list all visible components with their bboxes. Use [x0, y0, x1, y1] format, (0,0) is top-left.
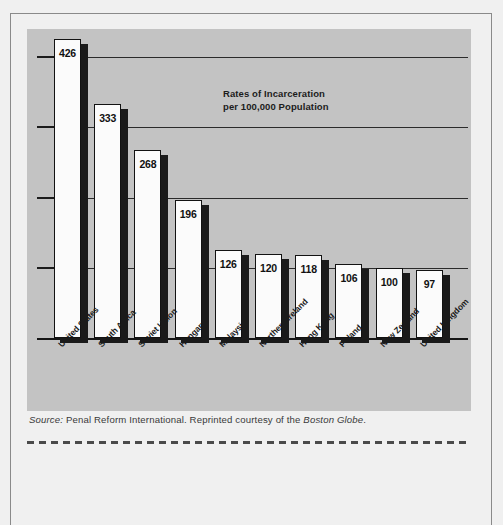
figure-container: 42633326819612612011810610097 Rates of I…: [0, 0, 503, 525]
dashed-rule: [27, 441, 471, 444]
source-period: .: [363, 414, 366, 425]
bar-value-label: 333: [94, 112, 121, 124]
bar-soviet-union: 268: [134, 150, 169, 338]
bar-hungary: 196: [175, 200, 210, 338]
chart-title: Rates of Incarceration per 100,000 Popul…: [223, 87, 329, 113]
bar-value-label: 120: [255, 262, 282, 274]
frame-left-rule: [10, 13, 11, 525]
bar-united-states: 426: [54, 39, 89, 338]
bar-body: [134, 150, 161, 338]
source-caption: Source: Penal Reform International. Repr…: [29, 414, 366, 425]
source-publication: Boston Globe: [303, 414, 363, 425]
chart-title-line-2: per 100,000 Population: [223, 100, 329, 113]
bar-value-label: 97: [416, 278, 443, 290]
frame-right-rule: [491, 13, 492, 525]
chart-panel: 42633326819612612011810610097 Rates of I…: [27, 29, 471, 411]
source-label: Source:: [29, 414, 63, 425]
bar-value-label: 426: [54, 47, 81, 59]
bar-value-label: 126: [215, 258, 242, 270]
bar-value-label: 268: [134, 158, 161, 170]
bar-body: [54, 39, 81, 338]
chart-title-line-1: Rates of Incarceration: [223, 87, 329, 100]
bar-body: [175, 200, 202, 338]
bar-south-africa: 333: [94, 104, 129, 338]
bar-body: [94, 104, 121, 338]
bar-value-label: 118: [295, 263, 322, 275]
bar-value-label: 100: [376, 276, 403, 288]
frame-top-rule: [10, 13, 492, 14]
bar-value-label: 106: [335, 272, 362, 284]
bar-value-label: 196: [175, 208, 202, 220]
source-body: Penal Reform International. Reprinted co…: [63, 414, 303, 425]
